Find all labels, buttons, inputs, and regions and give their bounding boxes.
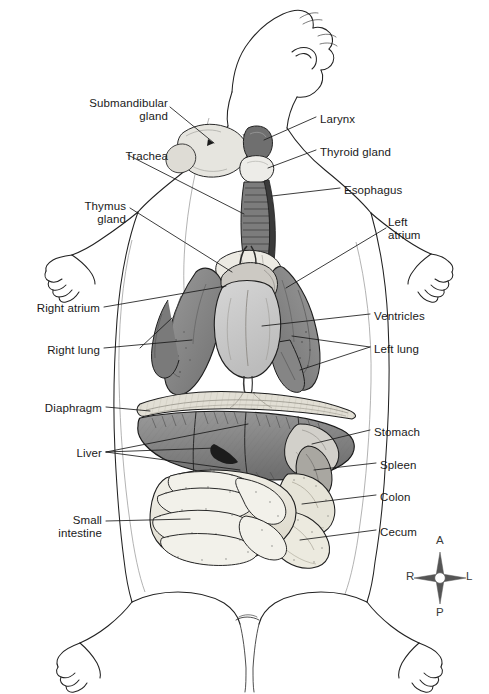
compass-label-right: R <box>406 570 414 582</box>
compass-label-anterior: A <box>436 534 444 546</box>
organ-label-right-lung: Right lung <box>20 344 100 357</box>
right-lung-shape <box>151 268 223 395</box>
organ-label-small-intestine: Small intestine <box>30 514 102 540</box>
organ-label-right-atrium: Right atrium <box>10 302 100 315</box>
orientation-compass-shape <box>414 552 466 604</box>
submandibular-gland-shape <box>166 124 249 177</box>
organ-label-submandibular-gland: Submandibular gland <box>58 97 168 123</box>
organ-label-left-atrium: Left atrium <box>388 216 421 242</box>
organ-label-liver: Liver <box>46 447 102 460</box>
diagram-canvas: Submandibular glandTracheaThymus glandRi… <box>0 0 489 694</box>
organ-label-esophagus: Esophagus <box>344 184 402 197</box>
organ-label-stomach: Stomach <box>374 426 420 439</box>
organ-label-diaphragm: Diaphragm <box>16 402 102 415</box>
compass-label-posterior: P <box>436 606 444 618</box>
organ-label-cecum: Cecum <box>380 526 417 539</box>
organ-label-colon: Colon <box>380 491 411 504</box>
organ-label-thymus-gland: Thymus gland <box>38 200 126 226</box>
thyroid-gland-shape <box>240 156 274 184</box>
organ-label-spleen: Spleen <box>380 459 416 472</box>
organ-label-thyroid-gland: Thyroid gland <box>320 146 391 159</box>
organ-label-trachea: Trachea <box>58 150 168 163</box>
small-intestine-shape <box>150 470 296 565</box>
organ-label-left-lung: Left lung <box>374 343 419 356</box>
compass-label-left: L <box>466 570 472 582</box>
organ-label-larynx: Larynx <box>320 113 355 126</box>
organ-label-ventricles: Ventricles <box>374 310 425 323</box>
